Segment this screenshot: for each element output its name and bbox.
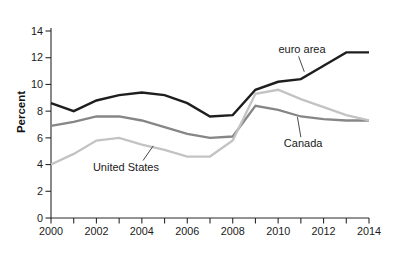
x-tick-label: 2012: [312, 225, 336, 237]
y-tick-label: 12: [31, 51, 43, 63]
axes: 0246810121420002002200420062008201020122…: [31, 25, 381, 237]
y-tick-label: 10: [31, 78, 43, 90]
x-tick-label: 2002: [84, 225, 108, 237]
x-tick-label: 2000: [39, 225, 63, 237]
y-tick-label: 4: [37, 158, 43, 170]
x-tick-label: 2004: [130, 225, 154, 237]
y-tick-label: 2: [37, 185, 43, 197]
unemployment-rates-line-chart: Percent 02468101214200020022004200620082…: [0, 0, 393, 256]
y-tick-label: 6: [37, 132, 43, 144]
series-line-canada: [51, 106, 369, 138]
axis-spine: [51, 28, 369, 218]
chart-canvas: Percent 02468101214200020022004200620082…: [0, 0, 393, 256]
y-tick-label: 8: [37, 105, 43, 117]
y-axis-title: Percent: [15, 91, 27, 133]
x-tick-label: 2008: [221, 225, 245, 237]
annotation-callout-canada: [297, 117, 300, 137]
x-tick-label: 2010: [266, 225, 290, 237]
x-tick-label: 2014: [357, 225, 381, 237]
annotation-callout-euro-area: [299, 56, 305, 71]
series-label-euro-area: euro area: [278, 43, 326, 55]
x-tick-label: 2006: [175, 225, 199, 237]
y-tick-label: 14: [31, 25, 43, 37]
y-tick-label: 0: [37, 212, 43, 224]
series-label-canada: Canada: [284, 137, 323, 149]
annotation-callout-united-states: [143, 146, 153, 161]
series-label-united-states: United States: [93, 161, 160, 173]
series-annotations: euro areaCanadaUnited States: [93, 43, 326, 173]
